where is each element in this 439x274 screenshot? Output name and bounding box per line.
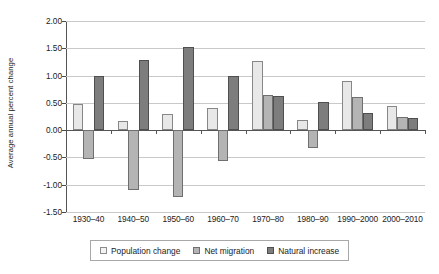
y-axis-line [66, 21, 67, 212]
bar [183, 47, 194, 130]
bar-chart-figure: Average annual percent change 2.001.501.… [0, 0, 439, 274]
x-axis-tick-mark [335, 130, 336, 134]
bar [94, 76, 105, 131]
legend-item: Natural increase [267, 246, 339, 256]
y-axis-tick-mark [62, 76, 66, 77]
bar [252, 61, 263, 130]
bar [397, 117, 408, 131]
x-axis-tick-label: 1990–2000 [337, 214, 378, 224]
bar [207, 108, 218, 130]
y-axis-title: Average annual percent change [0, 0, 20, 225]
x-axis-tick-mark [156, 130, 157, 134]
bar [408, 118, 419, 130]
x-axis-tick-mark [425, 130, 426, 134]
x-axis-tick-label: 1960–70 [207, 214, 239, 224]
bar [128, 130, 139, 190]
y-axis-tick-mark [62, 48, 66, 49]
x-axis-tick-mark [246, 130, 247, 134]
gridline [66, 157, 425, 158]
bar [218, 130, 229, 161]
bar [318, 102, 329, 130]
y-axis-tick-label: -0.50 [28, 152, 62, 162]
y-axis-tick-mark [62, 21, 66, 22]
x-axis-tick-mark [290, 130, 291, 134]
y-axis-tick-label: -1.50 [28, 207, 62, 217]
y-axis-tick-label: 1.00 [28, 71, 62, 81]
x-axis-tick-mark [111, 130, 112, 134]
legend-swatch-natural-increase [267, 247, 274, 254]
bar [139, 60, 150, 130]
gridline [66, 21, 425, 22]
bar [73, 104, 84, 130]
y-axis-tick-label: 0.50 [28, 98, 62, 108]
bar [273, 96, 284, 130]
y-axis-tick-mark [62, 185, 66, 186]
chart-legend: Population changeNet migrationNatural in… [90, 240, 349, 261]
bar [263, 95, 274, 130]
bar [297, 120, 308, 130]
bar [162, 114, 173, 130]
x-axis-tick-label: 2000–2010 [382, 214, 423, 224]
bar [342, 81, 353, 130]
y-axis-tick-mark [62, 157, 66, 158]
y-axis-tick-labels: 2.001.501.000.500.00-0.50-1.00-1.50 [24, 0, 62, 274]
legend-item-label: Population change [111, 246, 180, 256]
bar [118, 121, 129, 130]
x-axis-tick-label: 1980–90 [297, 214, 329, 224]
legend-swatch-population-change [100, 247, 107, 254]
x-axis-tick-label: 1970–80 [252, 214, 284, 224]
x-axis-tick-mark [201, 130, 202, 134]
bar [173, 130, 184, 197]
legend-item-label: Natural increase [278, 246, 339, 256]
bar [363, 113, 374, 130]
x-axis-tick-mark [380, 130, 381, 134]
y-axis-tick-label: -1.00 [28, 180, 62, 190]
y-axis-tick-label: 0.00 [28, 125, 62, 135]
x-axis-tick-label: 1940–50 [118, 214, 150, 224]
y-axis-tick-label: 1.50 [28, 43, 62, 53]
gridline [66, 76, 425, 77]
y-axis-title-text: Average annual percent change [6, 57, 15, 167]
y-axis-tick-mark [62, 212, 66, 213]
legend-item: Population change [100, 246, 180, 256]
legend-swatch-net-migration [193, 247, 200, 254]
gridline [66, 103, 425, 104]
gridline [66, 48, 425, 49]
y-axis-tick-mark [62, 103, 66, 104]
gridline [66, 185, 425, 186]
bar [228, 76, 239, 131]
x-axis-tick-label: 1950–60 [162, 214, 194, 224]
bar [352, 97, 363, 130]
legend-item: Net migration [193, 246, 254, 256]
bar [83, 130, 94, 158]
bar [387, 106, 398, 131]
legend-item-label: Net migration [204, 246, 254, 256]
y-axis-tick-label: 2.00 [28, 16, 62, 26]
gridline [66, 212, 425, 213]
x-axis-tick-label: 1930–40 [73, 214, 105, 224]
bar [308, 130, 319, 147]
x-axis-tick-labels: 1930–401940–501950–601960–701970–801980–… [66, 214, 425, 230]
plot-area [66, 21, 425, 212]
x-axis-tick-mark [66, 130, 67, 134]
